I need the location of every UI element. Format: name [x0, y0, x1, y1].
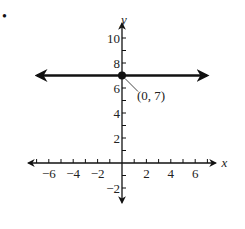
x-tick-label: −2 — [91, 166, 105, 181]
point-0-7 — [118, 72, 126, 80]
x-axis-label: x — [221, 155, 228, 170]
annotation-leader — [125, 79, 138, 92]
x-tick-label: −6 — [42, 166, 56, 181]
y-tick-label: 6 — [114, 81, 121, 96]
x-tick-label: 6 — [192, 166, 199, 181]
y-tick-label: 8 — [114, 56, 121, 71]
point-annotation: (0, 7) — [137, 88, 165, 103]
tick-labels: −6−4−2246108642−2xy(0, 7) — [42, 12, 228, 197]
x-tick-label: 4 — [168, 166, 175, 181]
y-tick-label: 4 — [114, 106, 121, 121]
y-tick-label: 10 — [107, 31, 120, 46]
y-axis-label: y — [119, 12, 127, 27]
x-tick-label: 2 — [143, 166, 150, 181]
x-tick-label: −4 — [66, 166, 80, 181]
graph: −6−4−2246108642−2xy(0, 7) — [0, 0, 245, 229]
y-tick-label: 2 — [114, 131, 121, 146]
y-tick-label: −2 — [106, 181, 120, 196]
